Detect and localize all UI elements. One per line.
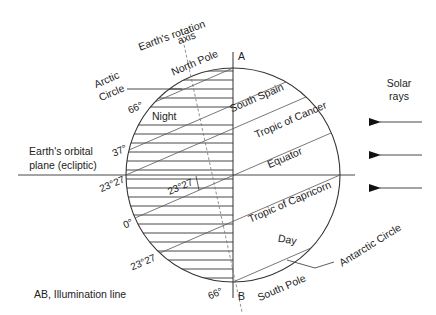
point-a-label: A xyxy=(238,50,245,62)
point-b-label: B xyxy=(238,290,245,302)
ecliptic-label-2: plane (ecliptic) xyxy=(29,159,97,171)
north-pole-label: North Pole xyxy=(169,47,219,78)
south-pole-label: South Pole xyxy=(255,272,307,304)
earth-illumination-diagram: Earth's rotation axis North Pole A B Arc… xyxy=(0,0,436,315)
parallel-arctic xyxy=(155,68,233,102)
angle-66-bottom: 66° xyxy=(206,285,224,301)
solar-rays xyxy=(380,122,422,188)
tropic-of-capricorn-label: Tropic of Capricorn xyxy=(246,178,332,224)
angle-66-top: 66° xyxy=(126,99,144,115)
equator-label: Equator xyxy=(265,144,304,170)
night-label: Night xyxy=(152,110,177,122)
south-spain-label: South Spain xyxy=(228,80,285,114)
antarctic-leader xyxy=(287,260,334,268)
solar-rays-label-2: rays xyxy=(389,90,409,102)
solar-rays-label-1: Solar xyxy=(387,77,412,89)
day-label: Day xyxy=(277,232,298,247)
angle-23-27-ecliptic: 23°27 xyxy=(98,173,127,194)
rotation-axis-label-1: Earth's rotation xyxy=(136,17,206,52)
illumination-line-label: AB, Illumination line xyxy=(34,288,126,300)
angle-23-27-low: 23°27 xyxy=(129,252,158,273)
ecliptic-label-1: Earth's orbital xyxy=(29,145,93,157)
angle-37: 37° xyxy=(110,143,128,159)
antarctic-circle-label: Antarctic Circle xyxy=(337,221,403,269)
tropic-of-cancer-label: Tropic of Cancer xyxy=(253,98,329,140)
angle-0: 0° xyxy=(121,217,134,231)
